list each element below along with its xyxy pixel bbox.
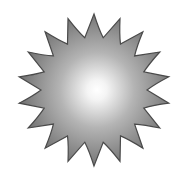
starburst-shape — [19, 14, 169, 166]
sun-starburst-icon — [0, 0, 187, 180]
